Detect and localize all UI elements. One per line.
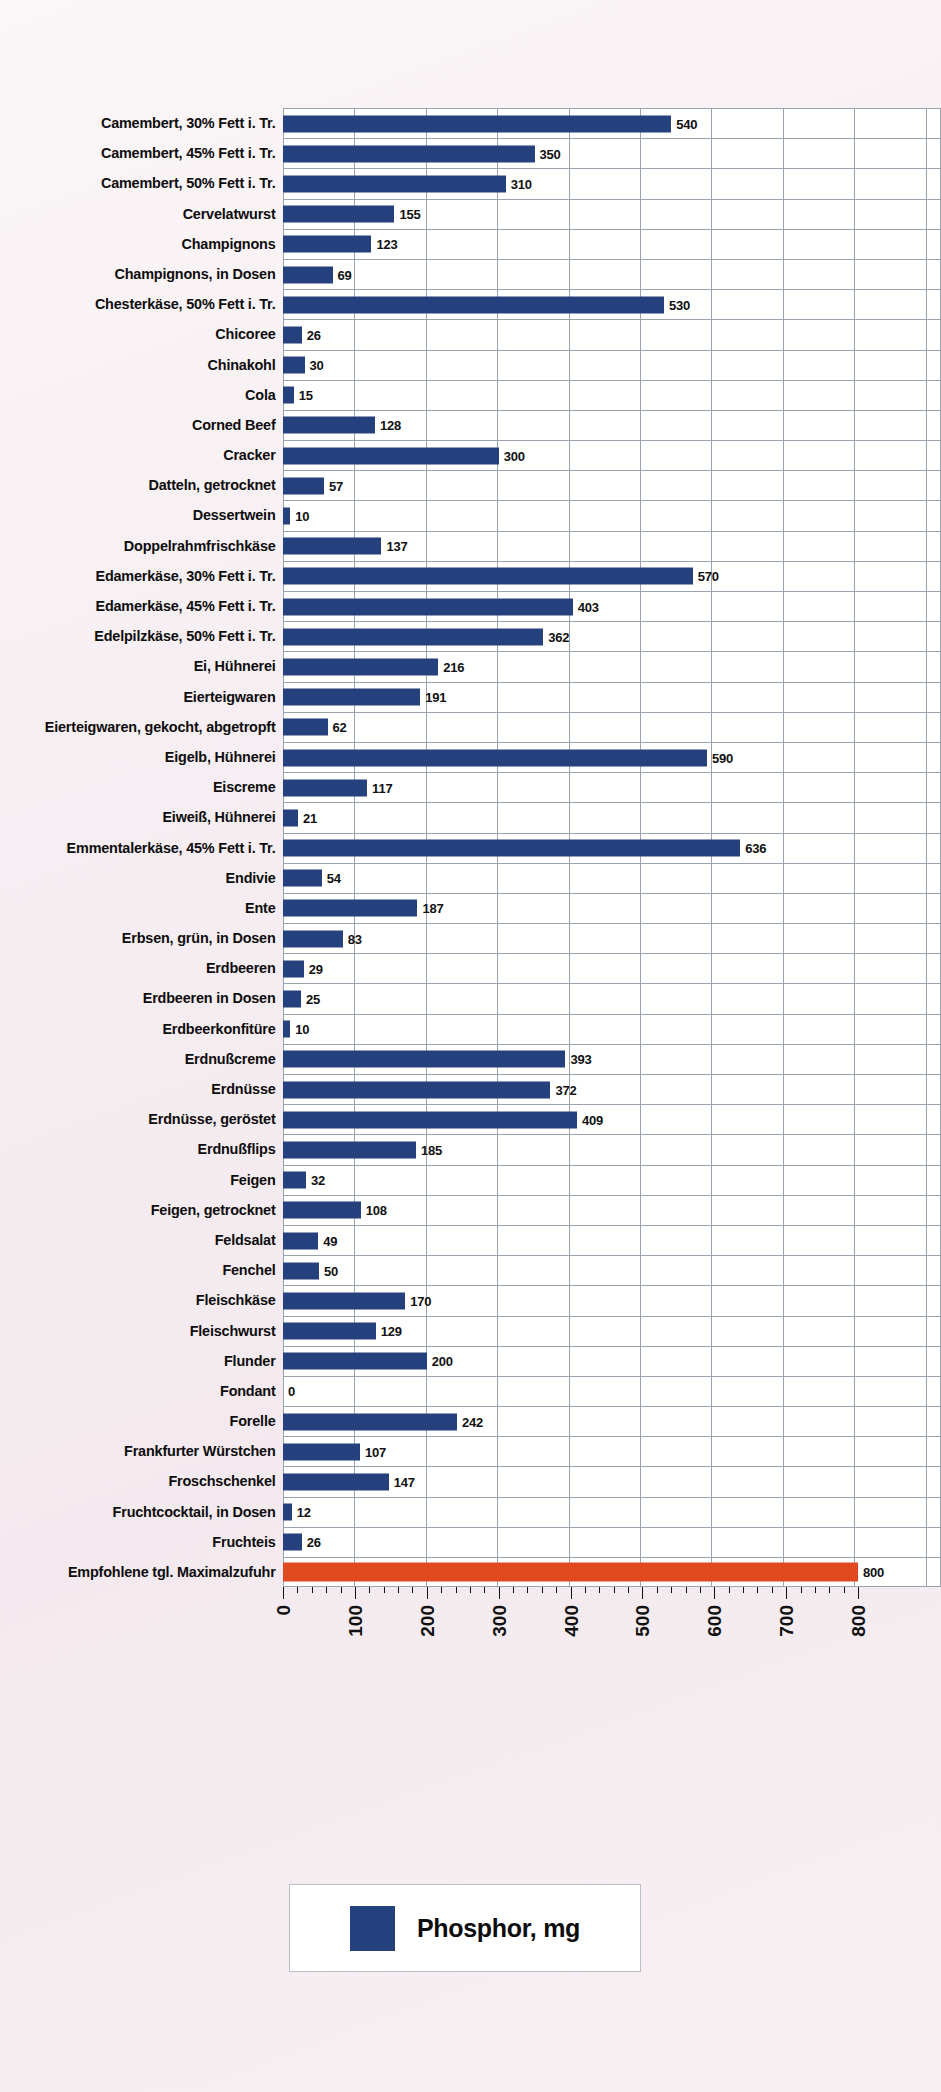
bar-value-label: 137: [386, 539, 407, 554]
category-label: Datteln, getrocknet: [20, 470, 283, 500]
bar-value-label: 170: [410, 1293, 431, 1308]
bar-value-label: 107: [365, 1444, 386, 1459]
row-plot-area: 26: [283, 319, 941, 349]
category-label: Cervelatwurst: [20, 199, 283, 229]
bar: [283, 1172, 306, 1189]
bar: [283, 991, 301, 1008]
chart-row: Dessertwein10: [0, 500, 941, 530]
category-label: Edelpilzkäse, 50% Fett i. Tr.: [20, 621, 283, 651]
chart-page: Camembert, 30% Fett i. Tr.540Camembert, …: [0, 0, 941, 2092]
chart-row: Camembert, 50% Fett i. Tr.310: [0, 168, 941, 198]
x-axis-ticks: [283, 1587, 858, 1600]
tick-major: [858, 1587, 859, 1599]
chart-row: Fruchtcocktail, in Dosen12: [0, 1497, 941, 1527]
category-label: Erdnußflips: [20, 1134, 283, 1164]
tick-minor: [772, 1587, 773, 1593]
tick-minor: [686, 1587, 687, 1593]
chart-row: Erbsen, grün, in Dosen83: [0, 923, 941, 953]
bar: [283, 447, 499, 464]
category-label: Froschschenkel: [20, 1466, 283, 1496]
category-label: Cracker: [20, 440, 283, 470]
bar: [283, 296, 664, 313]
category-label: Chinakohl: [20, 350, 283, 380]
bar-value-label: 0: [288, 1384, 295, 1399]
reference-bar: [283, 1563, 858, 1582]
category-label: Fleischwurst: [20, 1316, 283, 1346]
bar-value-label: 123: [376, 237, 397, 252]
category-label: Camembert, 50% Fett i. Tr.: [20, 168, 283, 198]
bar-value-label: 362: [548, 629, 569, 644]
category-label: Ei, Hühnerei: [20, 651, 283, 681]
row-plot-area: 54: [283, 863, 941, 893]
chart-row: Feigen, getrocknet108: [0, 1195, 941, 1225]
row-plot-area: 129: [283, 1316, 941, 1346]
bar: [283, 1262, 319, 1279]
bar-value-label: 10: [295, 1022, 309, 1037]
category-label: Fruchtcocktail, in Dosen: [20, 1497, 283, 1527]
row-plot-area: 83: [283, 923, 941, 953]
bar: [283, 628, 543, 645]
category-label: Emmentalerkäse, 45% Fett i. Tr.: [20, 833, 283, 863]
chart-row: Champignons, in Dosen69: [0, 259, 941, 289]
row-plot-area: 362: [283, 621, 941, 651]
chart-row: Camembert, 30% Fett i. Tr.540: [0, 108, 941, 138]
chart-row: Fleischwurst129: [0, 1316, 941, 1346]
bar: [283, 930, 343, 947]
bar: [283, 266, 333, 283]
tick-minor: [815, 1587, 816, 1593]
chart-row: Fenchel50: [0, 1255, 941, 1285]
bar-value-label: 128: [380, 418, 401, 433]
tick-major: [427, 1587, 428, 1599]
x-tick-label: 600: [704, 1605, 726, 1637]
tick-minor: [326, 1587, 327, 1593]
legend-color-swatch: [350, 1906, 395, 1951]
category-label: Erdnüsse, geröstet: [20, 1104, 283, 1134]
tick-major: [499, 1587, 500, 1599]
chart-row: Frankfurter Würstchen107: [0, 1436, 941, 1466]
chart-rows: Camembert, 30% Fett i. Tr.540Camembert, …: [0, 108, 941, 1587]
category-label: Erdbeeren in Dosen: [20, 983, 283, 1013]
bar: [283, 1474, 389, 1491]
chart-row: Chicoree26: [0, 319, 941, 349]
bar: [283, 1202, 361, 1219]
chart-row: Edelpilzkäse, 50% Fett i. Tr.362: [0, 621, 941, 651]
tick-minor: [484, 1587, 485, 1593]
bar-value-label: 216: [443, 659, 464, 674]
category-label: Eiweiß, Hühnerei: [20, 802, 283, 832]
bar-value-label: 570: [698, 569, 719, 584]
tick-minor: [412, 1587, 413, 1593]
tick-minor: [542, 1587, 543, 1593]
tick-minor: [312, 1587, 313, 1593]
row-plot-area: 403: [283, 591, 941, 621]
category-label: Camembert, 30% Fett i. Tr.: [20, 108, 283, 138]
legend-label: Phosphor, mg: [417, 1914, 580, 1943]
row-plot-area: 107: [283, 1436, 941, 1466]
bar: [283, 719, 328, 736]
tick-minor: [599, 1587, 600, 1593]
bar-value-label: 372: [555, 1082, 576, 1097]
chart-row: Froschschenkel147: [0, 1466, 941, 1496]
bar: [283, 1111, 577, 1128]
row-plot-area: 15: [283, 380, 941, 410]
category-label: Dessertwein: [20, 500, 283, 530]
category-label: Fenchel: [20, 1255, 283, 1285]
chart-row: Corned Beef128: [0, 410, 941, 440]
x-tick-label: 800: [848, 1605, 870, 1637]
bar: [283, 387, 294, 404]
chart-row: Eiscreme117: [0, 772, 941, 802]
bar-value-label: 300: [504, 448, 525, 463]
bar-value-label: 393: [570, 1052, 591, 1067]
tick-minor: [341, 1587, 342, 1593]
category-label: Chesterkäse, 50% Fett i. Tr.: [20, 289, 283, 319]
tick-minor: [614, 1587, 615, 1593]
bar: [283, 1353, 427, 1370]
row-plot-area: 300: [283, 440, 941, 470]
chart-row: Empfohlene tgl. Maximalzufuhr800: [0, 1557, 941, 1587]
chart-row: Edamerkäse, 45% Fett i. Tr.403: [0, 591, 941, 621]
row-plot-area: 409: [283, 1104, 941, 1134]
tick-minor: [743, 1587, 744, 1593]
chart-row: Camembert, 45% Fett i. Tr.350: [0, 138, 941, 168]
bar-value-label: 26: [307, 327, 321, 342]
x-tick-label: 200: [417, 1605, 439, 1637]
chart-row: Forelle242: [0, 1406, 941, 1436]
